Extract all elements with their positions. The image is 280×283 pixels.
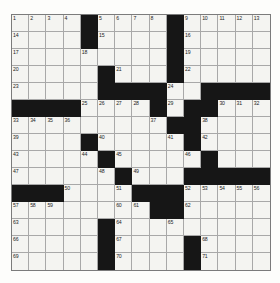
letter-cell[interactable]: 45 <box>115 151 132 168</box>
letter-cell[interactable]: 48 <box>98 168 115 185</box>
letter-cell[interactable] <box>167 236 184 253</box>
letter-cell[interactable] <box>81 202 98 219</box>
letter-cell[interactable]: 46 <box>184 151 201 168</box>
letter-cell[interactable] <box>184 83 201 100</box>
letter-cell[interactable]: 11 <box>218 15 235 32</box>
letter-cell[interactable] <box>150 236 167 253</box>
letter-cell[interactable]: 34 <box>29 117 46 134</box>
letter-cell[interactable] <box>81 253 98 270</box>
letter-cell[interactable] <box>46 66 63 83</box>
letter-cell[interactable]: 29 <box>167 100 184 117</box>
letter-cell[interactable]: 52 <box>184 185 201 202</box>
letter-cell[interactable] <box>29 134 46 151</box>
letter-cell[interactable] <box>218 117 235 134</box>
letter-cell[interactable] <box>132 219 149 236</box>
letter-cell[interactable] <box>29 49 46 66</box>
letter-cell[interactable] <box>46 32 63 49</box>
letter-cell[interactable] <box>132 236 149 253</box>
letter-cell[interactable]: 28 <box>132 100 149 117</box>
letter-cell[interactable] <box>64 32 81 49</box>
letter-cell[interactable] <box>98 117 115 134</box>
letter-cell[interactable] <box>115 49 132 66</box>
letter-cell[interactable]: 15 <box>98 32 115 49</box>
letter-cell[interactable] <box>81 83 98 100</box>
letter-cell[interactable] <box>29 219 46 236</box>
letter-cell[interactable] <box>46 236 63 253</box>
letter-cell[interactable]: 17 <box>12 49 29 66</box>
letter-cell[interactable]: 63 <box>12 219 29 236</box>
letter-cell[interactable] <box>236 49 253 66</box>
letter-cell[interactable] <box>253 236 270 253</box>
letter-cell[interactable]: 31 <box>236 100 253 117</box>
letter-cell[interactable]: 57 <box>12 202 29 219</box>
letter-cell[interactable] <box>150 168 167 185</box>
letter-cell[interactable] <box>115 134 132 151</box>
letter-cell[interactable] <box>29 151 46 168</box>
letter-cell[interactable]: 68 <box>201 236 218 253</box>
letter-cell[interactable] <box>81 117 98 134</box>
letter-cell[interactable] <box>218 49 235 66</box>
letter-cell[interactable]: 33 <box>12 117 29 134</box>
letter-cell[interactable] <box>218 32 235 49</box>
letter-cell[interactable] <box>201 66 218 83</box>
letter-cell[interactable] <box>46 253 63 270</box>
letter-cell[interactable]: 37 <box>150 117 167 134</box>
letter-cell[interactable] <box>132 49 149 66</box>
letter-cell[interactable] <box>253 134 270 151</box>
letter-cell[interactable] <box>81 185 98 202</box>
letter-cell[interactable]: 60 <box>115 202 132 219</box>
letter-cell[interactable] <box>98 202 115 219</box>
letter-cell[interactable]: 36 <box>64 117 81 134</box>
letter-cell[interactable] <box>64 134 81 151</box>
letter-cell[interactable]: 43 <box>12 151 29 168</box>
letter-cell[interactable] <box>81 219 98 236</box>
letter-cell[interactable] <box>253 253 270 270</box>
letter-cell[interactable]: 38 <box>201 117 218 134</box>
letter-cell[interactable] <box>64 219 81 236</box>
letter-cell[interactable]: 14 <box>12 32 29 49</box>
letter-cell[interactable] <box>46 83 63 100</box>
letter-cell[interactable] <box>218 66 235 83</box>
letter-cell[interactable]: 53 <box>201 185 218 202</box>
letter-cell[interactable] <box>29 83 46 100</box>
letter-cell[interactable] <box>218 236 235 253</box>
letter-cell[interactable]: 58 <box>29 202 46 219</box>
letter-cell[interactable]: 26 <box>98 100 115 117</box>
letter-cell[interactable] <box>150 134 167 151</box>
letter-cell[interactable] <box>201 219 218 236</box>
letter-cell[interactable] <box>64 83 81 100</box>
letter-cell[interactable] <box>167 253 184 270</box>
letter-cell[interactable] <box>167 151 184 168</box>
letter-cell[interactable] <box>236 117 253 134</box>
letter-cell[interactable] <box>150 66 167 83</box>
letter-cell[interactable] <box>236 219 253 236</box>
letter-cell[interactable] <box>29 253 46 270</box>
letter-cell[interactable]: 51 <box>115 185 132 202</box>
letter-cell[interactable]: 8 <box>150 15 167 32</box>
letter-cell[interactable]: 22 <box>184 66 201 83</box>
letter-cell[interactable] <box>29 168 46 185</box>
letter-cell[interactable]: 56 <box>253 185 270 202</box>
letter-cell[interactable]: 64 <box>115 219 132 236</box>
letter-cell[interactable] <box>201 32 218 49</box>
letter-cell[interactable] <box>46 49 63 66</box>
letter-cell[interactable] <box>46 219 63 236</box>
letter-cell[interactable]: 23 <box>12 83 29 100</box>
letter-cell[interactable] <box>253 151 270 168</box>
crossword-grid[interactable]: 1234567891011121314151617181920212223242… <box>11 14 271 271</box>
letter-cell[interactable] <box>253 117 270 134</box>
letter-cell[interactable] <box>167 168 184 185</box>
letter-cell[interactable] <box>115 32 132 49</box>
letter-cell[interactable]: 13 <box>253 15 270 32</box>
letter-cell[interactable] <box>64 202 81 219</box>
letter-cell[interactable]: 69 <box>12 253 29 270</box>
letter-cell[interactable]: 25 <box>81 100 98 117</box>
letter-cell[interactable] <box>236 253 253 270</box>
letter-cell[interactable] <box>150 253 167 270</box>
letter-cell[interactable]: 5 <box>98 15 115 32</box>
letter-cell[interactable] <box>253 219 270 236</box>
letter-cell[interactable]: 42 <box>201 134 218 151</box>
letter-cell[interactable]: 50 <box>64 185 81 202</box>
letter-cell[interactable]: 12 <box>236 15 253 32</box>
letter-cell[interactable]: 18 <box>81 49 98 66</box>
